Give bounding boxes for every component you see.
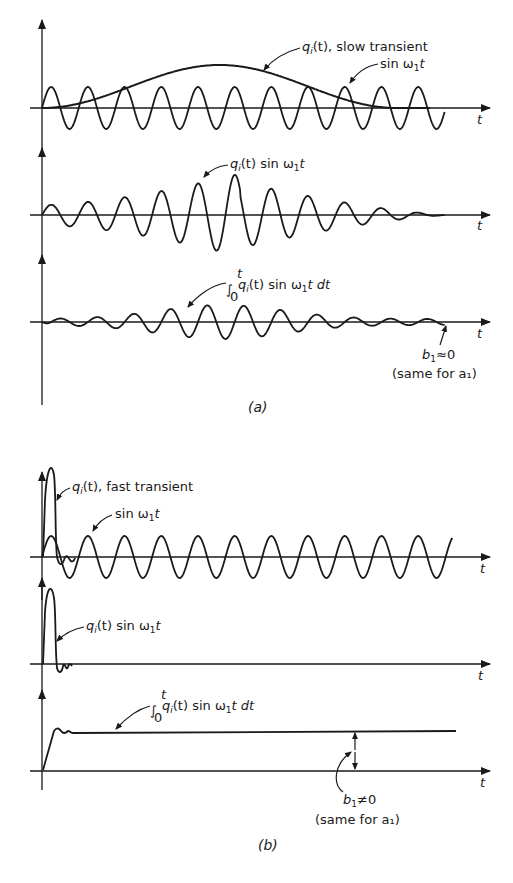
- result-b1: b1≠0: [343, 792, 376, 809]
- caption-a: (a): [248, 399, 268, 415]
- result-note: (same for a₁): [392, 366, 477, 381]
- label-sin: sin ω1t: [380, 56, 425, 73]
- leader-arrow: [93, 515, 112, 531]
- label-sin: sin ω1t: [115, 506, 160, 523]
- axis-label-t: t: [477, 326, 483, 341]
- label-product: qi(t) sin ω1t: [230, 156, 306, 173]
- leader-arrow: [204, 165, 228, 177]
- label-slow-transient: qi(t), slow transient: [302, 39, 428, 56]
- plot-b2: qi(t) sin ω1t t: [30, 589, 490, 683]
- leader-arrow: [440, 326, 446, 345]
- fourier-transient-diagram: qi(t), slow transient sin ω1t t qi(t) si…: [0, 0, 513, 883]
- leader-arrow: [350, 64, 378, 83]
- leader-arrow: [57, 488, 70, 500]
- plot-a3: ∫ t 0 qi(t) sin ω1t dt t b1≈0 (same for …: [30, 266, 490, 381]
- label-integral: qi(t) sin ω1t dt: [162, 698, 255, 715]
- plot-b1: qi(t), fast transient sin ω1t t: [30, 468, 490, 578]
- result-b1: b1≈0: [422, 347, 455, 364]
- axis-label-t: t: [477, 218, 483, 233]
- label-fast-transient: qi(t), fast transient: [72, 479, 193, 496]
- leader-arrow: [57, 627, 84, 641]
- label-product: qi(t) sin ω1t: [86, 618, 162, 635]
- axis-label-t: t: [480, 775, 486, 790]
- plot-a2: qi(t) sin ω1t t: [30, 156, 490, 251]
- integral-curve: [43, 728, 456, 770]
- leader-arrow: [116, 706, 150, 729]
- product-wave: [43, 589, 72, 672]
- leader-arrow: [188, 283, 226, 307]
- leader-arrow: [264, 48, 300, 70]
- caption-b: (b): [258, 837, 278, 853]
- axis-label-t: t: [480, 561, 486, 576]
- result-note: (same for a₁): [315, 812, 400, 827]
- axis-label-t: t: [477, 112, 483, 127]
- axis-label-t: t: [478, 668, 484, 683]
- product-wave: [42, 175, 445, 251]
- label-integral: qi(t) sin ω1t dt: [238, 277, 331, 294]
- panel-a: qi(t), slow transient sin ω1t t qi(t) si…: [30, 20, 490, 415]
- plot-b3: ∫ t 0 qi(t) sin ω1t dt b1≠0 (same for a₁…: [30, 687, 490, 827]
- plot-a1: qi(t), slow transient sin ω1t t: [30, 39, 490, 129]
- leader-arrow: [336, 752, 351, 792]
- panel-b: qi(t), fast transient sin ω1t t qi(t) si…: [30, 468, 490, 853]
